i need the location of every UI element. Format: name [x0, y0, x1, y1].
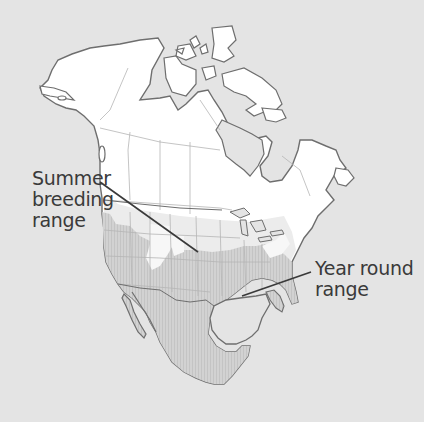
newfoundland: [334, 168, 354, 186]
summer-breeding-range-label: Summer breeding range: [32, 168, 114, 231]
summer-label-line3: range: [32, 210, 114, 231]
year-round-label-line2: range: [315, 279, 413, 300]
year-round-range-label: Year round range: [315, 258, 413, 300]
year-round-label-line1: Year round: [315, 258, 413, 279]
summer-label-line2: breeding: [32, 189, 114, 210]
summer-label-line1: Summer: [32, 168, 114, 189]
